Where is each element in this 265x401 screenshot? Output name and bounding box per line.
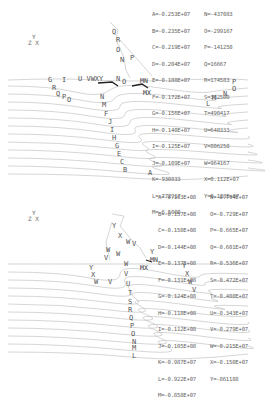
svg-text:L: L <box>132 352 136 360</box>
svg-text:Y: Y <box>112 222 117 230</box>
max-marker: MX <box>143 89 151 97</box>
legend-row: H=-0.140E+07U=648333 <box>152 128 239 134</box>
legend-row: C=-0.219E+07P=-141250 <box>152 45 239 51</box>
svg-text:C: C <box>120 158 124 166</box>
svg-text:O: O <box>131 330 135 338</box>
svg-text:N: N <box>100 93 104 101</box>
svg-text:I: I <box>62 76 66 84</box>
svg-text:R: R <box>128 306 133 314</box>
svg-text:U: U <box>126 280 130 288</box>
top-contour-plot: Y Z X GI U VWXY RQPO <box>0 0 265 182</box>
svg-text:P: P <box>130 54 134 62</box>
legend-row: I=-0.112E+08V=-0.279E+07 <box>158 327 248 333</box>
legend-row: G=-0.124E+08T=-0.408E+07 <box>158 294 248 300</box>
svg-text:W: W <box>126 238 131 246</box>
svg-text:V: V <box>108 278 113 286</box>
svg-text:O: O <box>67 96 71 104</box>
svg-text:M: M <box>102 101 106 109</box>
legend-row: H=-0.118E+08U=-0.343E+07 <box>158 311 248 317</box>
svg-text:G: G <box>115 142 119 150</box>
svg-text:P: P <box>62 93 66 101</box>
svg-text:M: M <box>132 344 136 352</box>
legend-row: A=-0.253E+07N=-437083 <box>152 12 239 18</box>
legend-row: E=-0.188E+07R=174583 <box>152 78 239 84</box>
max-marker: MX <box>140 264 148 272</box>
bottom-contour-plot: Y Z X YX WV WWV WY YXW <box>0 182 265 364</box>
legend-row: J=-0.105E+08W=-0.215E+07 <box>158 344 248 350</box>
svg-text:O: O <box>116 46 120 54</box>
legend-row: B=-0.157E+08O=-0.729E+07 <box>158 212 248 218</box>
svg-text:F: F <box>104 110 108 118</box>
svg-text:I: I <box>110 126 114 134</box>
svg-text:H: H <box>112 134 116 142</box>
svg-text:N: N <box>120 56 124 64</box>
svg-text:O: O <box>122 78 126 86</box>
contour-legend: A=-0.163E+08N=-0.794E+07 B=-0.157E+08O=-… <box>158 184 248 401</box>
svg-text:J: J <box>108 118 112 126</box>
svg-text:W: W <box>106 246 111 254</box>
legend-row: K=-0.987E+07X=-0.150E+07 <box>158 360 248 366</box>
legend-row: D=-0.204E+07Q=16667 <box>152 62 239 68</box>
legend-row: I=-0.125E+07V=806250 <box>152 144 239 150</box>
legend-row: L=-0.922E+07Y=-861188 <box>158 377 248 383</box>
svg-text:U VWXY: U VWXY <box>78 75 104 83</box>
legend-row: B=-0.235E+07O=-299167 <box>152 29 239 35</box>
svg-text:B: B <box>123 166 127 174</box>
legend-row: G=-0.156E+07T=490417 <box>152 111 239 117</box>
svg-text:S: S <box>128 298 132 306</box>
min-marker: MN <box>150 256 158 264</box>
svg-text:G: G <box>48 76 52 84</box>
svg-text:Q: Q <box>129 314 133 322</box>
min-marker: MN <box>140 77 148 85</box>
svg-text:Q: Q <box>112 28 116 36</box>
legend-row: A=-0.163E+08N=-0.794E+07 <box>158 195 248 201</box>
legend-row: M=-0.858E+07 <box>158 393 248 399</box>
svg-text:E: E <box>117 150 121 158</box>
legend-row: J=-0.109E+07W=964167 <box>152 161 239 167</box>
svg-text:N: N <box>116 75 120 83</box>
legend-row: F=-0.131E+08S=-0.472E+07 <box>158 278 248 284</box>
svg-text:Y: Y <box>150 248 155 256</box>
svg-text:X: X <box>118 232 123 240</box>
svg-text:Q: Q <box>56 90 60 98</box>
legend-row: D=-0.144E+08Q=-0.601E+07 <box>158 245 248 251</box>
svg-text:V: V <box>104 254 109 262</box>
svg-text:P: P <box>130 322 134 330</box>
legend-row: C=-0.150E+08P=-0.665E+07 <box>158 228 248 234</box>
svg-text:W: W <box>116 250 121 258</box>
legend-row: E=-0.137E+08R=-0.536E+07 <box>158 261 248 267</box>
legend-row: F=-0.172E+07S=332500 <box>152 95 239 101</box>
